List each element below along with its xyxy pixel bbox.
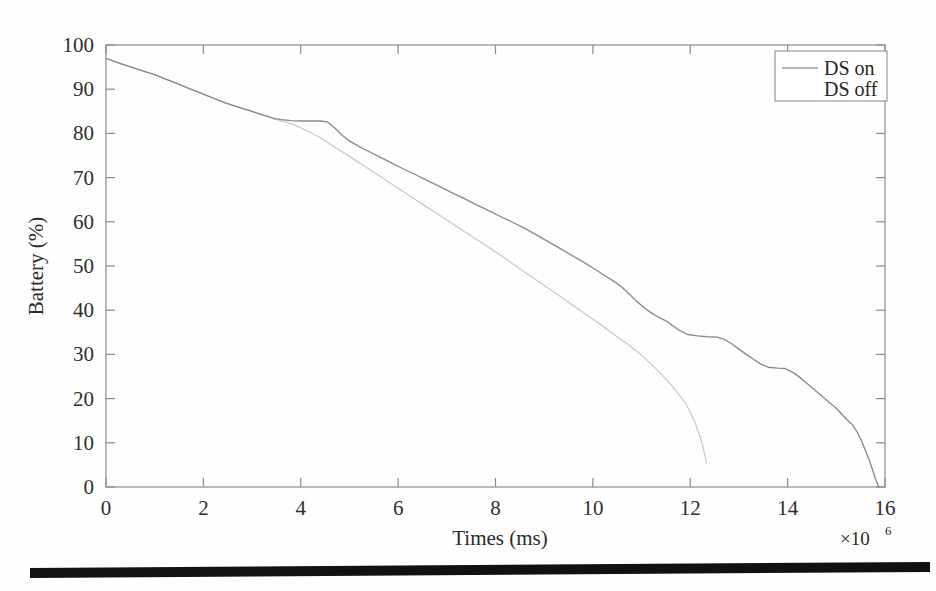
figure-container: 0102030405060708090100 0246810121416 Bat… bbox=[0, 0, 936, 591]
x-tick-label: 2 bbox=[198, 496, 209, 520]
x-tick-label: 0 bbox=[101, 496, 112, 520]
legend: DS on DS off bbox=[775, 51, 887, 101]
x-axis-multiplier-exponent: 6 bbox=[885, 523, 892, 538]
x-tick-label: 10 bbox=[582, 496, 603, 520]
y-tick-label: 20 bbox=[73, 387, 94, 411]
series-line-ds-on bbox=[106, 58, 879, 487]
y-axis-ticks: 0102030405060708090100 bbox=[63, 33, 886, 499]
battery-discharge-chart: 0102030405060708090100 0246810121416 Bat… bbox=[0, 0, 936, 591]
y-axis-title: Battery (%) bbox=[24, 217, 48, 316]
y-tick-label: 60 bbox=[73, 210, 94, 234]
x-tick-label: 12 bbox=[680, 496, 701, 520]
x-tick-label: 6 bbox=[393, 496, 404, 520]
y-tick-label: 10 bbox=[73, 431, 94, 455]
y-tick-label: 70 bbox=[73, 166, 94, 190]
y-tick-label: 100 bbox=[63, 33, 95, 57]
x-tick-label: 4 bbox=[296, 496, 307, 520]
y-tick-label: 50 bbox=[73, 254, 94, 278]
y-tick-label: 90 bbox=[73, 77, 94, 101]
y-tick-label: 40 bbox=[73, 298, 94, 322]
x-axis-ticks: 0246810121416 bbox=[101, 45, 896, 520]
x-axis-multiplier-base: ×10 bbox=[840, 528, 870, 549]
series-line-ds-off bbox=[106, 58, 707, 463]
x-tick-label: 16 bbox=[875, 496, 896, 520]
x-tick-label: 8 bbox=[490, 496, 501, 520]
x-axis-multiplier: ×10 6 bbox=[840, 523, 892, 549]
x-tick-label: 14 bbox=[777, 496, 799, 520]
legend-label-ds-on: DS on bbox=[824, 57, 875, 79]
plot-frame bbox=[106, 45, 885, 487]
y-tick-label: 0 bbox=[84, 475, 95, 499]
y-tick-label: 80 bbox=[73, 121, 94, 145]
y-tick-label: 30 bbox=[73, 342, 94, 366]
legend-label-ds-off: DS off bbox=[824, 78, 878, 100]
x-axis-title: Times (ms) bbox=[452, 526, 548, 550]
scan-edge-bar bbox=[30, 562, 930, 578]
